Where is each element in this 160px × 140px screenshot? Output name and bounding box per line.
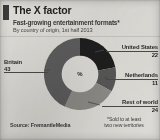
callout-netherlands-value: 11 <box>104 80 158 87</box>
chart-subtitle-secondary: By country of origin, 1st half 2013 <box>13 27 93 33</box>
callout-rest-of-world: Rest of world 24 <box>100 99 158 113</box>
footnote-line-2: two new territories <box>93 122 155 128</box>
page-title: The X factor <box>13 5 71 16</box>
chart-subtitle: Fast-growing entertainment formats* <box>13 19 120 26</box>
source-credit: Source: FremantleMedia <box>10 122 70 128</box>
callout-netherlands: Netherlands 11 <box>104 72 158 86</box>
accent-bar <box>3 5 9 20</box>
callout-united-states: United States 22 <box>104 44 158 58</box>
callout-britain: Britain 43 <box>4 59 50 73</box>
header-divider <box>0 36 160 37</box>
footnote: *Sold to at least two new territories <box>93 116 155 128</box>
callout-britain-rule <box>4 72 48 73</box>
chart-card: The X factor Fast-growing entertainment … <box>0 0 160 140</box>
callout-united-states-value: 22 <box>104 52 158 59</box>
callout-rest-of-world-value: 24 <box>100 107 158 114</box>
